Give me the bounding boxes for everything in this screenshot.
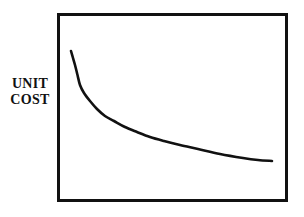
axis-label-line-1: UNIT xyxy=(4,76,56,92)
unit-cost-figure: UNIT COST xyxy=(0,0,304,217)
unit-cost-curve xyxy=(71,51,272,161)
plot-area xyxy=(0,0,304,217)
unit-cost-axis-label: UNIT COST xyxy=(4,76,56,108)
axis-label-line-2: COST xyxy=(4,92,56,108)
plot-frame xyxy=(59,15,287,201)
